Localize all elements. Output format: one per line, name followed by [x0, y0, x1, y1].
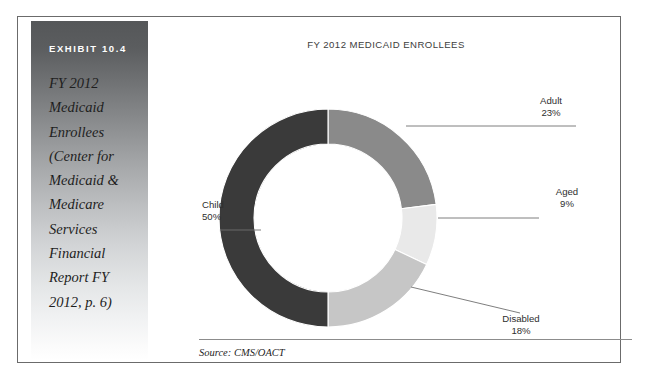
slice-value-adult: 23%	[524, 107, 578, 119]
source-note: Source: CMS/OACT	[199, 347, 285, 358]
slice-callout-disabled: Disabled 18%	[488, 313, 554, 338]
leader-line-disabled	[411, 287, 520, 313]
exhibit-number-label: EXHIBIT 10.4	[49, 43, 127, 54]
slice-value-disabled: 18%	[488, 325, 554, 337]
source-divider	[199, 339, 632, 340]
slice-callout-child: Child 50%	[202, 199, 262, 224]
slice-label-aged: Aged	[541, 186, 593, 198]
exhibit-sidebar: EXHIBIT 10.4 FY 2012 Medicaid Enrollees …	[31, 21, 148, 360]
slice-value-child: 50%	[202, 211, 262, 223]
slice-value-aged: 9%	[541, 198, 593, 210]
exhibit-frame: EXHIBIT 10.4 FY 2012 Medicaid Enrollees …	[17, 16, 621, 363]
slice-label-adult: Adult	[524, 95, 578, 107]
slice-callout-adult: Adult 23%	[524, 95, 578, 120]
exhibit-caption: FY 2012 Medicaid Enrollees (Center for M…	[49, 71, 141, 314]
chart-panel: FY 2012 MEDICAID ENROLLEES Adult 23% Age…	[158, 21, 614, 358]
donut-slice-adult	[328, 109, 436, 209]
slice-label-child: Child	[202, 199, 262, 211]
slice-label-disabled: Disabled	[488, 313, 554, 325]
slice-callout-aged: Aged 9%	[541, 186, 593, 211]
donut-slice-disabled	[328, 250, 427, 327]
